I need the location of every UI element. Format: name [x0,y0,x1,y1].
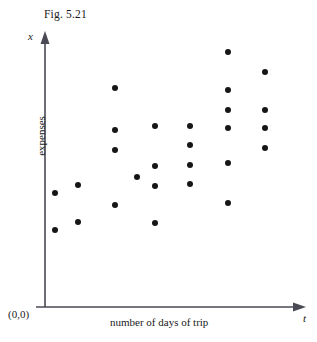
data-point [152,123,158,129]
data-point [225,160,231,166]
data-point [262,69,268,75]
data-point [225,200,231,206]
scatter-plot-figure: Fig. 5.21 x t (0,0) expenses number of d… [0,0,317,342]
data-points-layer [0,0,317,342]
data-point [262,107,268,113]
data-point [112,127,118,133]
data-point [152,163,158,169]
data-point [262,125,268,131]
data-point [134,174,140,180]
data-point [52,227,58,233]
data-point [225,107,231,113]
data-point [225,49,231,55]
data-point [225,87,231,93]
data-point [152,220,158,226]
data-point [187,123,193,129]
data-point [75,219,81,225]
data-point [75,182,81,188]
data-point [112,202,118,208]
data-point [225,125,231,131]
data-point [187,181,193,187]
data-point [52,190,58,196]
data-point [262,145,268,151]
data-point [187,162,193,168]
data-point [152,183,158,189]
data-point [112,147,118,153]
data-point [187,142,193,148]
data-point [112,85,118,91]
